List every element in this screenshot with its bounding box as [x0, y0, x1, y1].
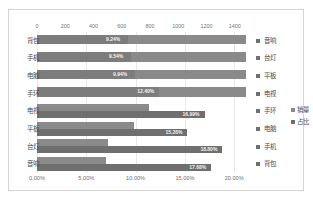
right-category-marker — [256, 56, 260, 60]
left-category-label: 电视 — [17, 106, 39, 116]
bar-percentage[interactable] — [37, 164, 211, 171]
bottom-axis-tick: 20.00% — [225, 173, 244, 183]
chart-row: 15.26% — [37, 120, 249, 138]
right-category-label: 手机 — [264, 142, 290, 152]
data-label-percentage: 17.68% — [189, 164, 206, 171]
left-category-label: 手机 — [17, 53, 39, 63]
bottom-axis-percentage: 0.00%5.00%10.00%15.00%20.00% — [9, 173, 303, 183]
chart-row: 12.40% — [37, 85, 249, 103]
right-category-label: 音响 — [264, 36, 290, 46]
top-axis-tick: 200 — [61, 21, 70, 31]
right-category-label: 电脑 — [264, 124, 290, 134]
right-category-marker — [256, 127, 260, 131]
top-axis-tick: 400 — [89, 21, 98, 31]
legend-swatch-icon — [291, 108, 295, 112]
plot-area: 9.24%9.54%9.94%12.40%16.99%15.26%18.80%1… — [37, 32, 249, 173]
chart-container: 0200400600800100012001400 9.24%9.54%9.94… — [8, 9, 304, 191]
bottom-axis-tick: 0.00% — [29, 173, 45, 183]
data-label-percentage: 12.40% — [137, 87, 154, 96]
right-category-marker — [256, 109, 260, 113]
right-category-marker — [256, 145, 260, 149]
top-axis-tick: 0 — [36, 21, 39, 31]
top-axis-tick: 600 — [117, 21, 126, 31]
chart-row: 17.68% — [37, 155, 249, 173]
bottom-axis-tick: 10.00% — [126, 173, 145, 183]
right-category-marker — [256, 74, 260, 78]
bottom-axis-tick: 5.00% — [78, 173, 94, 183]
bar-percentage[interactable] — [37, 146, 222, 153]
bottom-axis-tick: 15.00% — [175, 173, 194, 183]
top-axis-tick: 1000 — [172, 21, 184, 31]
chart-row: 9.24% — [37, 32, 249, 50]
data-label-percentage: 9.54% — [109, 52, 123, 61]
left-category-label: 台灯 — [17, 142, 39, 152]
left-category-label: 手环 — [17, 89, 39, 99]
right-category-label: 背包 — [264, 159, 290, 169]
top-axis-tick: 1200 — [201, 21, 213, 31]
legend-swatch-icon — [291, 120, 295, 124]
bar-percentage[interactable] — [37, 111, 205, 118]
top-axis-sales: 0200400600800100012001400 — [9, 21, 303, 31]
left-category-label: 平板 — [17, 124, 39, 134]
top-axis-tick: 800 — [146, 21, 155, 31]
right-category-label: 台灯 — [264, 53, 290, 63]
data-label-percentage: 15.26% — [165, 129, 182, 136]
right-category-label: 手环 — [264, 106, 290, 116]
right-category-label: 平板 — [264, 71, 290, 81]
right-category-marker — [256, 162, 260, 166]
chart-row: 16.99% — [37, 103, 249, 121]
chart-row: 9.54% — [37, 50, 249, 68]
top-axis-tick: 1400 — [229, 21, 241, 31]
right-category-marker — [256, 92, 260, 96]
left-category-label: 背包 — [17, 36, 39, 46]
data-label-percentage: 18.80% — [200, 146, 217, 153]
data-label-percentage: 9.24% — [106, 35, 120, 44]
chart-row: 9.94% — [37, 67, 249, 85]
left-category-label: 电脑 — [17, 71, 39, 81]
chart-row: 18.80% — [37, 138, 249, 156]
right-category-label: 电视 — [264, 89, 290, 99]
left-category-label: 音响 — [17, 159, 39, 169]
data-label-percentage: 16.99% — [183, 111, 200, 118]
data-label-percentage: 9.94% — [113, 70, 127, 79]
legend-label: 占比 — [297, 116, 309, 128]
legend-label: 销量 — [297, 104, 309, 116]
right-category-marker — [256, 39, 260, 43]
